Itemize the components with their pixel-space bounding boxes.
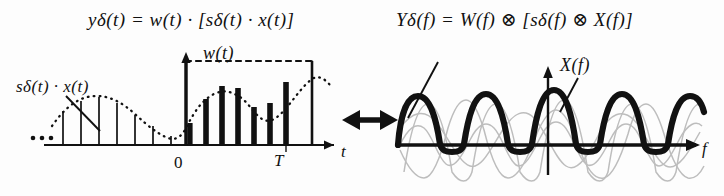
axis-label-frequency: f bbox=[702, 140, 707, 157]
faint-replica-curves bbox=[400, 100, 704, 181]
label-sampled-signal: sδ(t) · x(t) bbox=[16, 78, 89, 95]
label-window-function: w(t) bbox=[203, 44, 234, 62]
axis-tick-origin: 0 bbox=[174, 154, 183, 171]
sample-stems-thin bbox=[63, 97, 171, 145]
axis-tick-window-end: T bbox=[274, 152, 283, 169]
transform-pair-arrow bbox=[342, 110, 398, 130]
equation-frequency-domain: Yδ(f) = W(f) ⊗ [sδ(f) ⊗ X(f)] bbox=[396, 10, 633, 29]
right-panel-group bbox=[396, 62, 704, 181]
figure-root: yδ(t) = w(t) · [sδ(t) · x(t)] Yδ(f) = W(… bbox=[0, 0, 724, 196]
axis-label-time: t bbox=[341, 143, 346, 160]
label-spectrum: X(f) bbox=[560, 56, 590, 74]
equation-time-domain: yδ(t) = w(t) · [sδ(t) · x(t)] bbox=[88, 10, 294, 29]
left-panel-group bbox=[31, 52, 334, 152]
sample-stems-thick bbox=[190, 82, 286, 145]
callout-line-sx bbox=[66, 96, 100, 131]
ellipsis-dots bbox=[31, 136, 54, 141]
